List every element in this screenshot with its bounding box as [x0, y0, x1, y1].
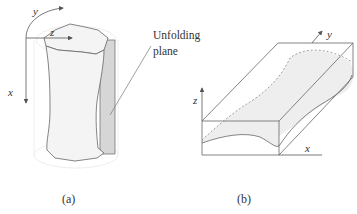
x-axis-label-b: x [304, 142, 310, 154]
y-axis-b [312, 31, 322, 43]
panel-b: z x y (b) [192, 28, 353, 206]
caption-a: (a) [62, 192, 75, 206]
x-axis-label: x [7, 86, 13, 98]
panel-a: y z x Unfolding plane (a) [7, 5, 201, 206]
caption-b: (b) [237, 192, 251, 206]
y-axis-label: y [32, 5, 38, 17]
z-axis-label-b: z [192, 94, 198, 106]
z-axis-label: z [49, 26, 55, 38]
callout-line-1: Unfolding [153, 29, 201, 42]
figure: y z x Unfolding plane (a) z [0, 0, 357, 214]
callout-leader [110, 46, 151, 115]
body-shaft [46, 46, 104, 161]
callout-line-2: plane [153, 45, 178, 58]
y-axis-label-b: y [326, 28, 332, 40]
